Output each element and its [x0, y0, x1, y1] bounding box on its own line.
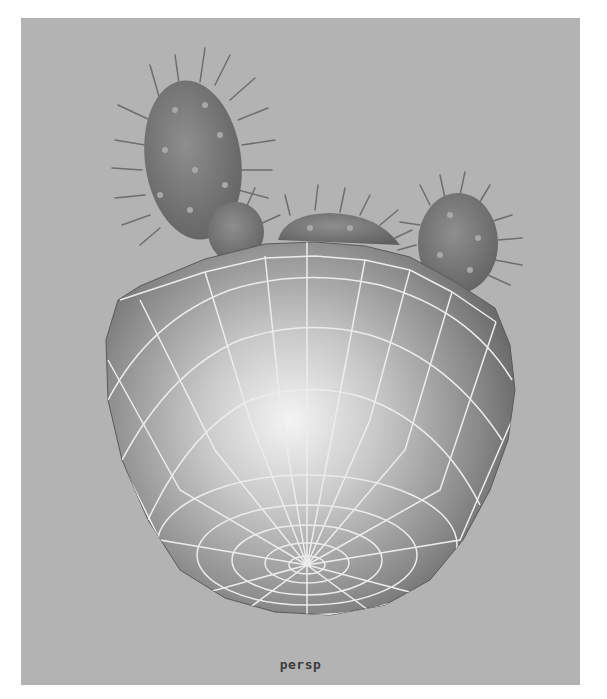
perspective-viewport[interactable]: persp — [21, 18, 580, 685]
cactus-pad-center — [278, 213, 400, 245]
camera-label: persp — [21, 657, 580, 672]
scene-canvas[interactable] — [21, 18, 580, 685]
pot-hemisphere[interactable] — [106, 240, 515, 620]
